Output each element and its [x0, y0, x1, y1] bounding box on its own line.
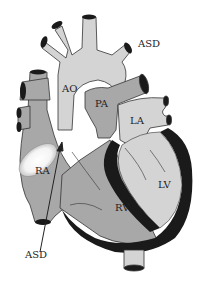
- heart-illustration: [0, 0, 203, 282]
- label-ra: RA: [35, 166, 50, 176]
- descending-vessel: [124, 250, 144, 271]
- label-la: LA: [130, 116, 144, 126]
- label-ao: AO: [62, 84, 77, 94]
- label-lv: LV: [158, 180, 171, 190]
- label-pa: PA: [95, 99, 108, 109]
- label-asd-bottom: ASD: [25, 250, 47, 260]
- label-rv: RV: [115, 203, 129, 213]
- label-asd-top: ASD: [138, 39, 160, 49]
- heart-diagram: ASD AO PA LA RA LV RV ASD: [0, 0, 203, 282]
